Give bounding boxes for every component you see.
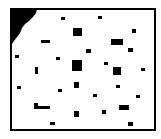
obstacle — [61, 17, 65, 20]
obstacle — [56, 57, 60, 60]
obstacle — [72, 60, 82, 71]
obstacle — [41, 40, 50, 43]
obstacle — [17, 86, 21, 89]
obstacle — [86, 49, 91, 53]
obstacle — [116, 85, 120, 88]
obstacle — [98, 16, 102, 19]
obstacle — [119, 105, 129, 110]
obstacle — [93, 94, 97, 97]
obstacle — [128, 122, 133, 126]
obstacle — [102, 110, 106, 114]
obstacle — [141, 68, 145, 71]
obstacle — [74, 111, 79, 117]
obstacle — [58, 89, 62, 92]
obstacle — [104, 62, 108, 65]
obstacle — [132, 29, 136, 33]
obstacle — [50, 122, 55, 125]
occupancy-map — [0, 0, 161, 139]
obstacle — [34, 106, 50, 109]
obstacle — [136, 95, 140, 98]
obstacle — [35, 67, 38, 74]
obstacle — [111, 39, 123, 45]
obstacle — [128, 48, 133, 52]
obstacle — [74, 82, 79, 88]
obstacle — [113, 67, 121, 75]
obstacle — [73, 28, 82, 36]
obstacle — [15, 55, 19, 58]
